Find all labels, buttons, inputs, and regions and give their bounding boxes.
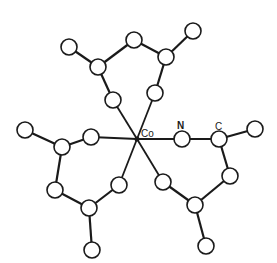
atom-a2 <box>90 59 106 75</box>
atom-c1 <box>211 131 227 147</box>
atom-a1 <box>61 39 77 55</box>
label-n: N <box>177 120 184 131</box>
label-co: Co <box>141 128 154 139</box>
atom-b7 <box>84 242 100 258</box>
atom-a6 <box>147 85 163 101</box>
molecular-diagram: Co N C <box>0 0 277 263</box>
atom-b2 <box>54 139 70 155</box>
atom-c3 <box>222 168 238 184</box>
atom-c4 <box>187 197 203 213</box>
atom-b5 <box>81 200 97 216</box>
atom-b6 <box>111 177 127 193</box>
atom-c6 <box>198 238 214 254</box>
atom-a5 <box>185 23 201 39</box>
label-c: C <box>215 121 222 132</box>
atom-b1 <box>17 122 33 138</box>
atom-a4 <box>158 49 174 65</box>
atom-n1 <box>174 131 190 147</box>
atom-b3 <box>83 129 99 145</box>
atom-b4 <box>47 182 63 198</box>
atom-c2 <box>247 121 263 137</box>
atom-a7 <box>105 92 121 108</box>
cobalt-complex-structure: Co N C <box>0 0 277 263</box>
cobalt-atom <box>135 137 140 142</box>
atom-a3 <box>126 32 142 48</box>
atoms <box>17 23 263 258</box>
atom-c5 <box>155 174 171 190</box>
